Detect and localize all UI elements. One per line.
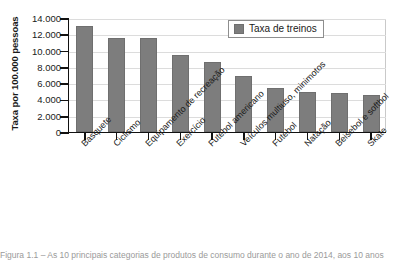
bar — [76, 26, 93, 132]
y-axis-tick-label: 10.000 — [3, 47, 61, 57]
y-axis-tick — [60, 34, 69, 36]
y-axis-tick-label: 12.000 — [3, 30, 61, 40]
y-axis-tick — [60, 100, 69, 102]
bar — [331, 93, 348, 132]
y-axis-tick-label: 2.000 — [3, 112, 61, 122]
legend-label: Taxa de treinos — [249, 24, 317, 34]
y-axis-tick-label: 14.000 — [3, 14, 61, 24]
y-axis-tick-label: 0 — [3, 128, 61, 138]
bar — [299, 92, 316, 132]
bar-chart-figure: Taxa por 100.000 pessoas 02.0004.0006.00… — [0, 0, 415, 261]
y-axis-tick — [60, 83, 69, 85]
bar — [140, 38, 157, 132]
y-axis-tick-label: 4.000 — [3, 95, 61, 105]
y-axis-tick — [60, 18, 69, 20]
y-axis-tick-label: 8.000 — [3, 63, 61, 73]
y-axis-tick — [60, 116, 69, 118]
chart-legend: Taxa de treinos — [228, 20, 324, 38]
y-axis-tick-label: 6.000 — [3, 79, 61, 89]
plot-area: 02.0004.0006.0008.00010.00012.00014.000 — [68, 19, 386, 133]
legend-swatch-icon — [234, 24, 244, 34]
y-axis-tick — [60, 132, 69, 134]
y-axis-tick — [60, 51, 69, 53]
y-axis-tick — [60, 67, 69, 69]
figure-caption: Figura 1.1 – As 10 principais categorias… — [0, 249, 415, 261]
